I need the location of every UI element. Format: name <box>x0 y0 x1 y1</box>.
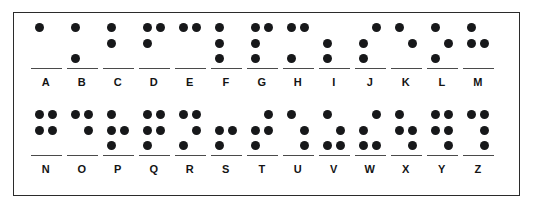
braille-dot-4 <box>372 110 381 119</box>
braille-dot-empty <box>120 23 129 32</box>
braille-dot-3 <box>359 54 368 63</box>
braille-dot-empty <box>444 23 453 32</box>
cell-underline <box>463 155 494 156</box>
braille-cell-m: M <box>460 19 496 88</box>
braille-dot-empty <box>264 54 273 63</box>
braille-dot-grid <box>250 106 275 153</box>
braille-dot-grid <box>322 106 347 153</box>
cell-underline <box>103 68 134 69</box>
braille-cell-x: X <box>388 106 424 175</box>
cell-underline <box>247 68 278 69</box>
braille-dot-1 <box>107 110 116 119</box>
braille-dot-6 <box>444 141 453 150</box>
letter-label: S <box>222 163 230 175</box>
braille-dot-empty <box>107 54 116 63</box>
braille-dot-1 <box>431 110 440 119</box>
braille-dot-empty <box>431 39 440 48</box>
braille-dot-empty <box>48 23 57 32</box>
braille-dot-empty <box>48 141 57 150</box>
braille-dot-3 <box>431 54 440 63</box>
braille-dot-empty <box>35 39 44 48</box>
braille-dot-empty <box>372 126 381 135</box>
braille-dot-grid <box>394 106 419 153</box>
braille-dot-empty <box>156 141 165 150</box>
braille-dot-grid <box>70 106 95 153</box>
cell-underline <box>355 68 386 69</box>
braille-dot-empty <box>359 110 368 119</box>
braille-dot-2 <box>467 39 476 48</box>
braille-row-top: ABCDEFGHIJKLM <box>14 19 521 101</box>
braille-cell-o: O <box>64 106 100 175</box>
braille-dot-empty <box>71 126 80 135</box>
braille-dot-empty <box>120 110 129 119</box>
braille-dot-4 <box>84 110 93 119</box>
braille-cell-u: U <box>280 106 316 175</box>
letter-label: Y <box>438 163 446 175</box>
braille-dot-empty <box>300 39 309 48</box>
letter-label: F <box>222 76 229 88</box>
letter-label: N <box>42 163 50 175</box>
braille-cell-c: C <box>100 19 136 88</box>
braille-dot-empty <box>251 110 260 119</box>
braille-chart-frame: ABCDEFGHIJKLM NOPQRSTUVWXYZ <box>13 12 520 196</box>
braille-dot-empty <box>120 141 129 150</box>
braille-dot-6 <box>372 141 381 150</box>
braille-dot-empty <box>444 54 453 63</box>
braille-dot-1 <box>215 23 224 32</box>
cell-underline <box>31 68 62 69</box>
braille-dot-empty <box>48 39 57 48</box>
braille-dot-3 <box>359 141 368 150</box>
cell-underline <box>427 155 458 156</box>
braille-dot-1 <box>35 110 44 119</box>
braille-dot-1 <box>467 23 476 32</box>
braille-dot-empty <box>120 39 129 48</box>
braille-dot-1 <box>431 23 440 32</box>
cell-underline <box>175 68 206 69</box>
braille-dot-empty <box>84 141 93 150</box>
braille-dot-6 <box>408 141 417 150</box>
cell-underline <box>391 155 422 156</box>
braille-cell-r: R <box>172 106 208 175</box>
letter-label: J <box>367 76 374 88</box>
cell-underline <box>391 68 422 69</box>
braille-dot-grid <box>430 19 455 66</box>
braille-dot-4 <box>300 23 309 32</box>
braille-dot-5 <box>264 126 273 135</box>
braille-dot-2 <box>215 39 224 48</box>
braille-dot-grid <box>394 19 419 66</box>
braille-dot-empty <box>323 23 332 32</box>
braille-dot-empty <box>179 39 188 48</box>
braille-cell-p: P <box>100 106 136 175</box>
braille-dot-empty <box>323 126 332 135</box>
braille-dot-empty <box>372 39 381 48</box>
braille-dot-empty <box>84 23 93 32</box>
braille-dot-empty <box>467 126 476 135</box>
braille-dot-5 <box>480 39 489 48</box>
braille-cell-h: H <box>280 19 316 88</box>
braille-cell-s: S <box>208 106 244 175</box>
braille-dot-1 <box>71 23 80 32</box>
braille-dot-grid <box>34 19 59 66</box>
letter-label: E <box>186 76 194 88</box>
braille-dot-empty <box>192 54 201 63</box>
cell-underline <box>427 68 458 69</box>
braille-dot-empty <box>395 39 404 48</box>
braille-dot-1 <box>71 110 80 119</box>
braille-dot-3 <box>323 54 332 63</box>
braille-dot-empty <box>431 141 440 150</box>
braille-dot-grid <box>142 106 167 153</box>
braille-dot-2 <box>359 126 368 135</box>
braille-dot-empty <box>228 54 237 63</box>
letter-label: T <box>258 163 265 175</box>
letter-label: Q <box>149 163 158 175</box>
braille-dot-empty <box>35 141 44 150</box>
braille-cell-z: Z <box>460 106 496 175</box>
braille-dot-empty <box>120 54 129 63</box>
braille-dot-3 <box>251 141 260 150</box>
braille-dot-4 <box>192 110 201 119</box>
braille-dot-5 <box>48 126 57 135</box>
braille-row-bottom: NOPQRSTUVWXYZ <box>14 106 521 188</box>
braille-dot-5 <box>228 126 237 135</box>
braille-dot-grid <box>286 106 311 153</box>
cell-underline <box>319 68 350 69</box>
